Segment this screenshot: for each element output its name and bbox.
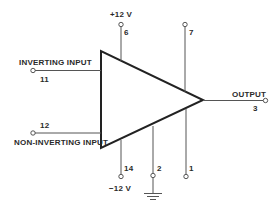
negative-supply-terminal[interactable] — [119, 174, 123, 178]
non-inverting-input-pin-number: 12 — [40, 121, 50, 130]
pin-7-terminal[interactable] — [183, 22, 187, 26]
pin-7: 7 — [183, 22, 194, 92]
ground-pin-terminal[interactable] — [151, 173, 155, 177]
inverting-input-terminal[interactable] — [31, 68, 35, 72]
positive-supply-label: +12 V — [110, 10, 133, 19]
pin-1-number: 1 — [189, 164, 194, 173]
output-pin-number: 3 — [253, 104, 258, 113]
inverting-input-pin-number: 11 — [40, 75, 49, 84]
positive-supply-pin: +12 V 6 — [110, 10, 133, 61]
ground-icon — [144, 178, 162, 200]
op-amp-diagram: +12 V 6 7 INVERTING INPUT 11 12 NON-INVE… — [0, 0, 279, 213]
inverting-input-pin: INVERTING INPUT 11 — [19, 58, 101, 84]
negative-supply-pin-number: 14 — [124, 164, 134, 173]
pin-1: 1 — [184, 109, 194, 179]
output-pin: OUTPUT 3 — [203, 90, 268, 113]
non-inverting-input-label: NON-INVERTING INPUT — [14, 138, 108, 147]
positive-supply-pin-number: 6 — [124, 28, 129, 37]
output-label: OUTPUT — [232, 90, 266, 99]
pin-1-terminal[interactable] — [184, 174, 188, 178]
non-inverting-input-pin: 12 NON-INVERTING INPUT — [14, 121, 108, 147]
non-inverting-input-terminal[interactable] — [31, 131, 35, 135]
positive-supply-terminal[interactable] — [119, 22, 123, 26]
op-amp-triangle — [101, 51, 203, 148]
ground-pin-number: 2 — [157, 164, 162, 173]
ground-pin: 2 — [144, 126, 162, 200]
negative-supply-pin: 14 −12 V — [109, 140, 134, 193]
pin-7-number: 7 — [189, 28, 194, 37]
inverting-input-label: INVERTING INPUT — [19, 58, 92, 67]
negative-supply-label: −12 V — [109, 184, 132, 193]
